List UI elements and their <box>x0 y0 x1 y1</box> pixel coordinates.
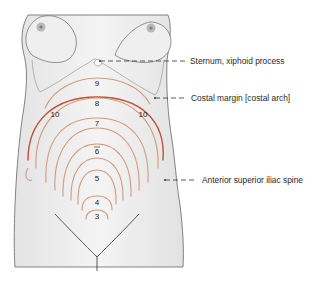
torso-illustration <box>0 0 316 287</box>
arc-number-10-left: 10 <box>51 111 60 119</box>
xiphoid <box>94 59 102 66</box>
arc-number-4: 4 <box>95 199 99 207</box>
label-costal-margin: Costal margin [costal arch] <box>191 94 290 102</box>
arc-number-8: 8 <box>95 100 99 108</box>
arc-number-5: 5 <box>95 175 99 183</box>
arc-number-3: 3 <box>95 213 99 221</box>
label-asis: Anterior superior iliac spine <box>202 176 303 184</box>
arc-number-9: 9 <box>95 80 99 88</box>
arc-number-10-right: 10 <box>139 111 148 119</box>
anatomy-figure: Sternum, xiphoid process Costal margin [… <box>0 0 316 287</box>
arc-number-6: 6 <box>95 148 99 156</box>
label-sternum-xiphoid: Sternum, xiphoid process <box>190 57 285 65</box>
arc-number-7: 7 <box>95 120 99 128</box>
